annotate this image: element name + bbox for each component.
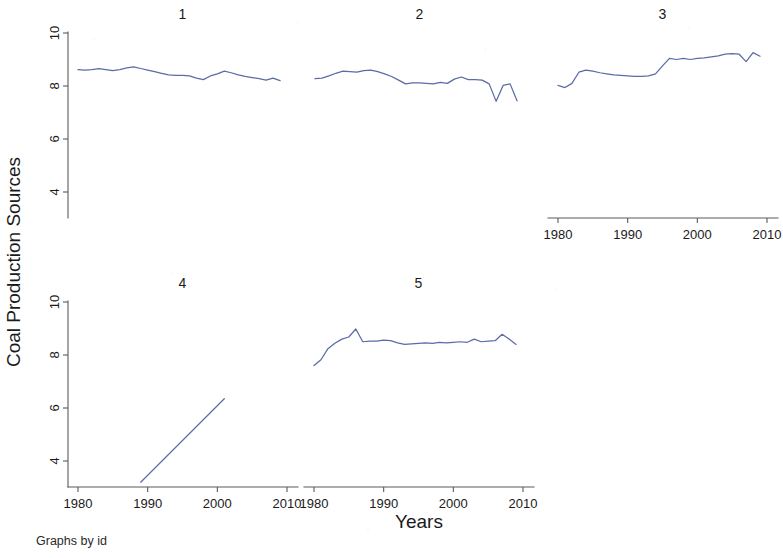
x-axis-title: Years	[395, 511, 443, 532]
series-line-panel-5	[314, 329, 516, 366]
x-tick-label-1980-panel-3: 1980	[544, 227, 573, 242]
y-tick-label-10-panel-1: 10	[47, 26, 62, 40]
panel-1: 146810	[47, 6, 280, 218]
panel-title-5: 5	[415, 275, 423, 291]
panel-title-4: 4	[179, 275, 187, 291]
panel-title-3: 3	[659, 6, 667, 22]
panel-5: 51980199020002010	[300, 275, 538, 511]
series-line-panel-1	[78, 67, 280, 81]
x-tick-label-2000-panel-3: 2000	[683, 227, 712, 242]
panel-title-1: 1	[179, 6, 187, 22]
x-tick-label-2010-panel-4: 2010	[273, 496, 302, 511]
series-line-panel-4	[141, 399, 225, 482]
x-tick-label-2000-panel-4: 2000	[203, 496, 232, 511]
series-line-panel-2	[315, 70, 517, 101]
x-tick-label-2000-panel-5: 2000	[439, 496, 468, 511]
x-tick-label-1980-panel-5: 1980	[300, 496, 329, 511]
y-axis-title: Coal Production Sources	[3, 157, 24, 367]
y-tick-label-6-panel-1: 6	[47, 135, 62, 142]
x-tick-label-1990-panel-5: 1990	[369, 496, 398, 511]
panel-2: 2	[315, 6, 517, 101]
y-tick-label-4-panel-1: 4	[47, 188, 62, 195]
small-multiples-line-chart: 1468102319801990200020104468101980199020…	[0, 0, 783, 558]
plot-panels: 1468102319801990200020104468101980199020…	[47, 6, 782, 511]
y-tick-label-10-panel-4: 10	[47, 295, 62, 309]
y-tick-label-6-panel-4: 6	[47, 404, 62, 411]
panel-3: 31980199020002010	[544, 6, 782, 242]
y-tick-label-8-panel-4: 8	[47, 351, 62, 358]
x-tick-label-1990-panel-3: 1990	[613, 227, 642, 242]
graphs-by-note: Graphs by id	[36, 534, 107, 548]
y-tick-label-8-panel-1: 8	[47, 82, 62, 89]
panel-4: 4468101980199020002010	[47, 275, 302, 511]
y-tick-label-4-panel-4: 4	[47, 457, 62, 464]
series-line-panel-3	[558, 53, 760, 88]
x-tick-label-2010-panel-5: 2010	[509, 496, 538, 511]
x-tick-label-1990-panel-4: 1990	[133, 496, 162, 511]
chart-figure: 1468102319801990200020104468101980199020…	[0, 0, 783, 558]
x-tick-label-1980-panel-4: 1980	[64, 496, 93, 511]
x-tick-label-2010-panel-3: 2010	[753, 227, 782, 242]
panel-title-2: 2	[416, 6, 424, 22]
